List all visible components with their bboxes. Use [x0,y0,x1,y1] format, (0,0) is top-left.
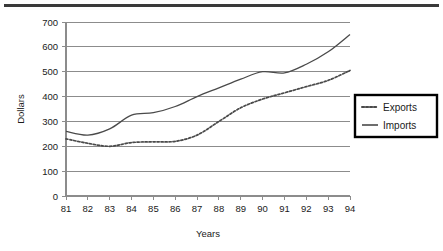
x-tick-label-13: 94 [345,203,356,214]
y-tick-label-500: 500 [42,66,58,77]
chart-figure: 700 600 500 400 300 200 100 0 81 [0,0,443,251]
x-tick-label-0: 81 [61,203,72,214]
series-line-exports [66,70,350,146]
x-tick-label-2: 83 [104,203,115,214]
x-axis-title: Years [196,228,220,239]
legend-label-exports[interactable]: Exports [383,102,417,113]
y-tick-label-600: 600 [42,41,58,52]
y-tick-label-400: 400 [42,91,58,102]
x-tick-label-1: 82 [83,203,94,214]
x-tick-label-11: 92 [301,203,312,214]
y-tick-label-0: 0 [53,191,58,202]
x-axis-tick-marks [66,196,350,200]
x-tick-label-12: 93 [323,203,334,214]
x-tick-label-8: 89 [236,203,247,214]
y-tick-label-700: 700 [42,17,58,28]
x-tick-label-6: 87 [192,203,203,214]
x-tick-label-3: 84 [126,203,137,214]
x-tick-label-5: 86 [170,203,181,214]
legend-label-imports[interactable]: Imports [383,120,416,131]
chart-legend[interactable]: Exports Imports [355,95,437,137]
line-chart: 700 600 500 400 300 200 100 0 81 [0,0,443,251]
x-tick-label-9: 90 [257,203,268,214]
x-axis-tick-labels: 81 82 83 84 85 86 87 88 89 90 91 92 93 9… [61,203,356,214]
y-tick-label-300: 300 [42,116,58,127]
y-tick-label-100: 100 [42,166,58,177]
series-line-imports [66,34,350,135]
y-axis-tick-labels: 700 600 500 400 300 200 100 0 [42,17,58,202]
x-tick-label-4: 85 [148,203,159,214]
y-axis-title: Dollars [15,94,26,124]
x-tick-label-7: 88 [214,203,225,214]
y-tick-label-200: 200 [42,141,58,152]
x-tick-label-10: 91 [279,203,290,214]
gridlines [66,22,350,171]
